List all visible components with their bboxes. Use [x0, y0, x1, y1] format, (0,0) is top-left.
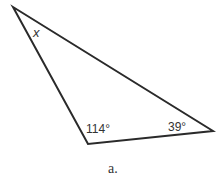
angle-label-39: 39° [168, 120, 186, 134]
angle-label-114: 114° [86, 122, 110, 136]
angle-label-x: x [32, 25, 40, 40]
triangle-diagram: x 114° 39° a. [0, 0, 224, 183]
figure-caption: a. [108, 161, 118, 176]
